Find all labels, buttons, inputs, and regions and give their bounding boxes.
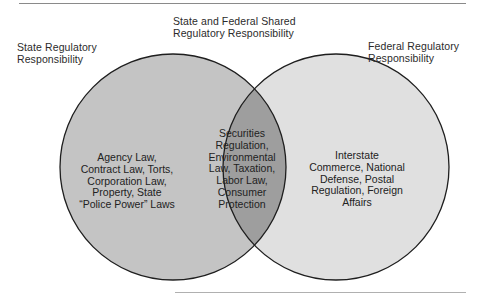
bottom-rule [175,292,466,293]
state-region-text: Agency Law, Contract Law, Torts, Corpora… [62,152,192,211]
shared-region-text: Securities Regulation, Environmental Law… [203,128,281,211]
shared-responsibility-label: State and Federal Shared Regulatory Resp… [173,16,296,39]
federal-responsibility-label: Federal Regulatory Responsibility [368,41,459,64]
state-responsibility-label: State Regulatory Responsibility [17,42,97,65]
federal-region-text: Interstate Commerce, National Defense, P… [298,150,416,209]
